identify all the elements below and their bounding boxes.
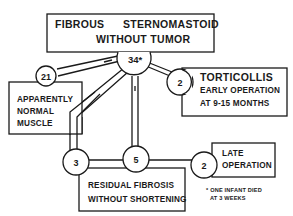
root-label-without-tumor: WITHOUT TUMOR (96, 33, 190, 45)
footnote: * ONE INFANT DIED AT 3 WEEKS (206, 187, 262, 201)
torticollis-count: 2 (177, 78, 182, 88)
late-count: 2 (201, 161, 206, 171)
root-label-sternomastoid: STERNOMASTOID (123, 18, 219, 30)
outcome-flow-diagram: FIBROUS STERNOMASTOID WITHOUT TUMOR 34* … (0, 0, 293, 216)
torticollis-title: TORTICOLLIS (200, 71, 273, 83)
torticollis-node: 2 TORTICOLLIS EARLY OPERATION AT 9-15 MO… (167, 68, 287, 116)
residual-mid-count: 5 (133, 155, 138, 165)
normal-label-line1: APPARENTLY (17, 95, 73, 104)
footnote-line1: * ONE INFANT DIED (206, 187, 262, 193)
root-count-node: 34* (117, 52, 151, 75)
residual-left-count: 3 (73, 158, 78, 168)
late-node: 2 LATE OPERATION (191, 143, 275, 178)
connector-root-to-normal (57, 56, 120, 76)
residual-node: 3 5 RESIDUAL FIBROSIS WITHOUT SHORTENING (63, 146, 192, 211)
root-count: 34* (128, 54, 143, 65)
residual-line2: WITHOUT SHORTENING (88, 195, 187, 204)
normal-label-line3: MUSCLE (17, 119, 53, 128)
connector-root-to-residual-mid (132, 76, 138, 148)
normal-count: 21 (41, 72, 51, 82)
normal-node: 21 APPARENTLY NORMAL MUSCLE (9, 66, 82, 134)
residual-line1: RESIDUAL FIBROSIS (88, 181, 174, 190)
late-line2: OPERATION (222, 161, 272, 170)
late-line1: LATE (222, 149, 244, 158)
torticollis-line1: EARLY OPERATION (200, 86, 280, 95)
normal-label-line2: NORMAL (17, 107, 54, 116)
torticollis-line2: AT 9-15 MONTHS (200, 99, 270, 108)
root-node: FIBROUS STERNOMASTOID WITHOUT TUMOR (47, 14, 219, 52)
root-label-fibrous: FIBROUS (55, 18, 104, 30)
footnote-line2: AT 3 WEEKS (210, 195, 246, 201)
